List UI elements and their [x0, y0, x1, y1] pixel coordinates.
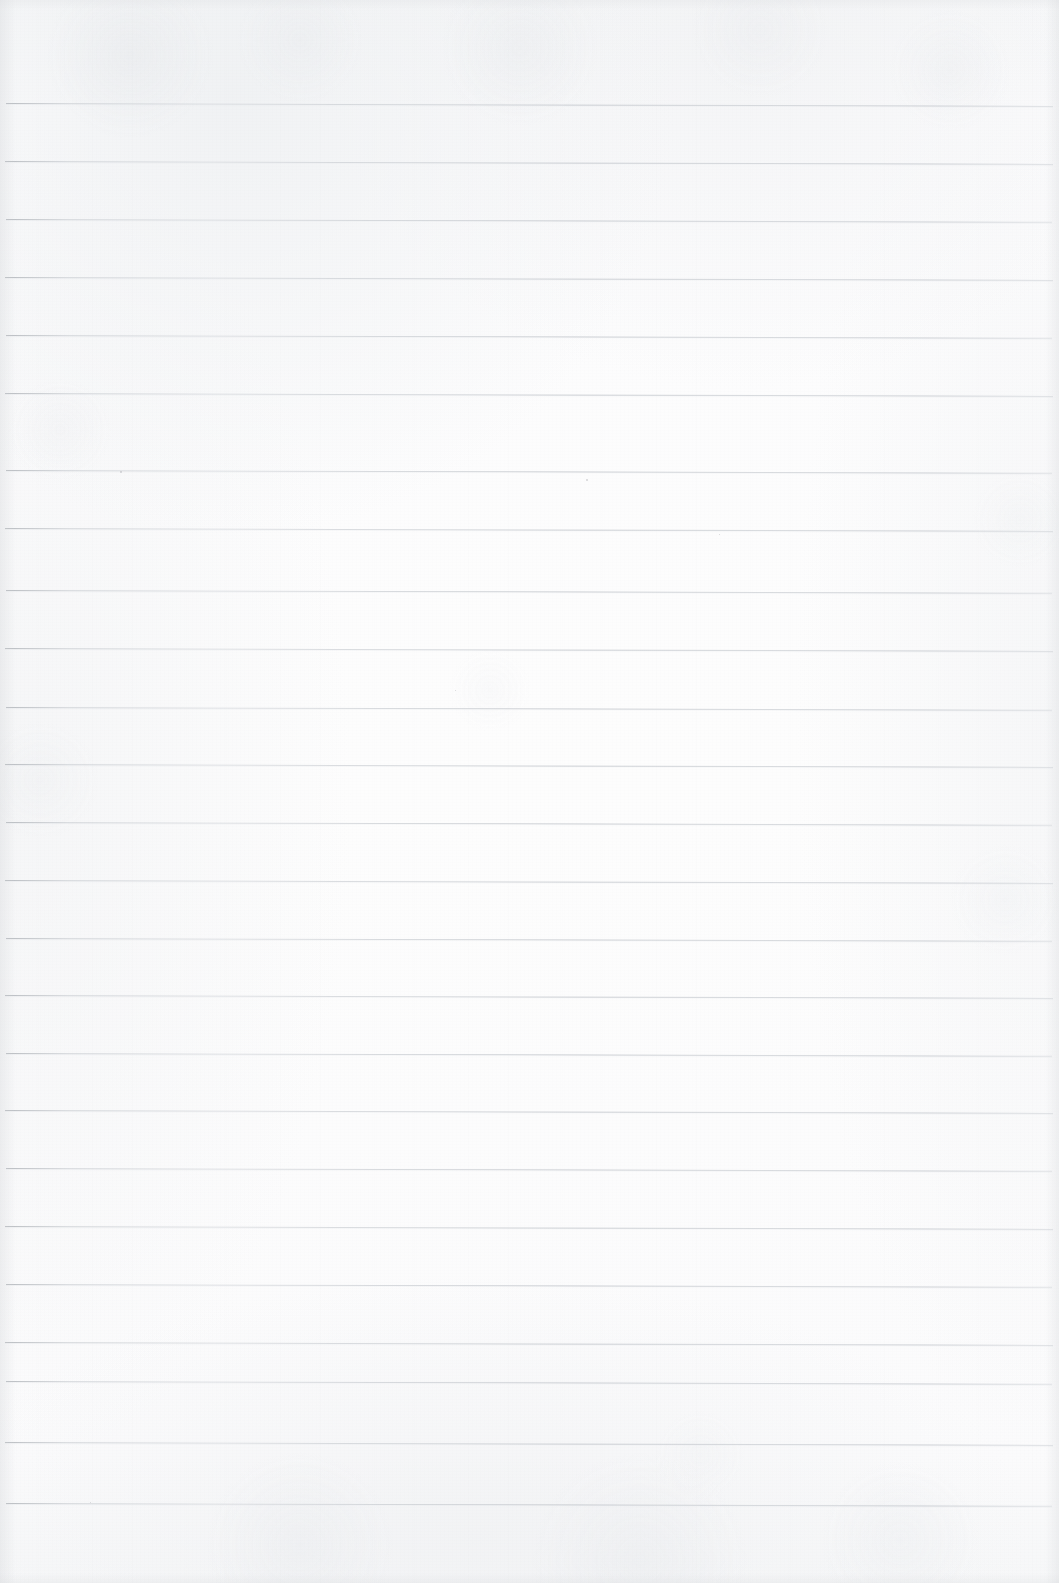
scanned-notebook-page: [0, 0, 1059, 1583]
page-edge-vignette: [0, 0, 1059, 1583]
